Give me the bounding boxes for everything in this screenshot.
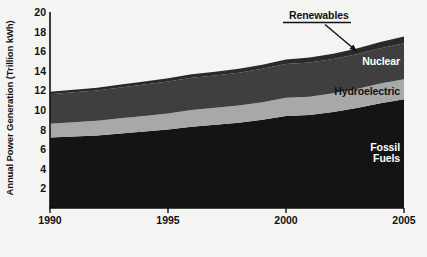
series-label-hydroelectric: Hydroelectric xyxy=(334,86,400,97)
plot-area xyxy=(0,0,427,257)
area-series-group xyxy=(50,37,404,209)
renewables-callout-group xyxy=(283,23,357,52)
series-label-nuclear: Nuclear xyxy=(362,56,400,67)
stacked-area-chart: Annual Power Generation (Trillion kWh) 2… xyxy=(0,0,427,257)
series-label-fossil-fuels: Fossil Fuels xyxy=(370,142,400,165)
series-label-renewables: Renewables xyxy=(289,10,349,21)
